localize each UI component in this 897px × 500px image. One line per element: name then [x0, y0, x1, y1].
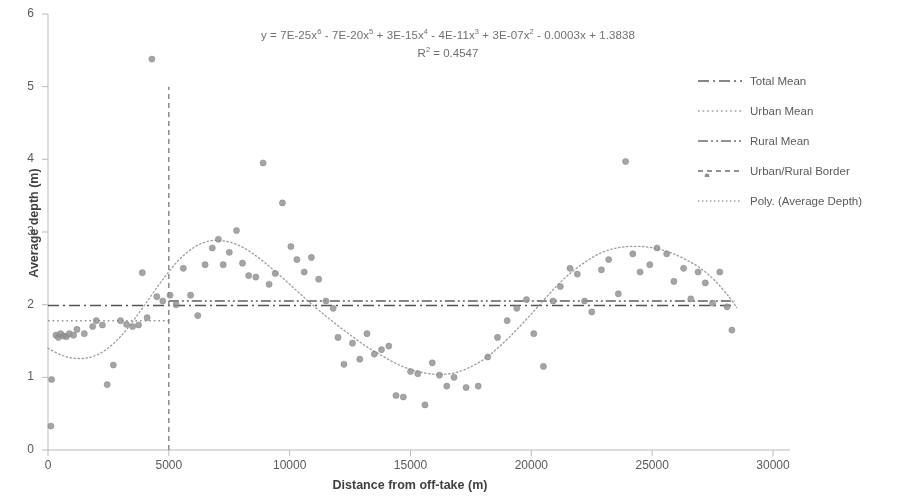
data-point: [139, 270, 145, 276]
legend-item-urban-rural-border[interactable]: Urban/Rural Border: [697, 156, 893, 186]
trendline: [48, 240, 737, 374]
data-point: [514, 305, 520, 311]
data-point: [598, 267, 604, 273]
legend-label: Poly. (Average Depth): [750, 195, 862, 207]
data-point: [81, 331, 87, 337]
data-point: [422, 402, 428, 408]
legend-key-icon: [697, 75, 743, 87]
data-point: [220, 262, 226, 268]
data-point: [48, 423, 54, 429]
data-point: [531, 331, 537, 337]
data-point: [104, 382, 110, 388]
polynomial-trendline: [48, 240, 737, 374]
data-point: [717, 269, 723, 275]
data-point: [154, 294, 160, 300]
data-point: [335, 334, 341, 340]
data-point: [444, 383, 450, 389]
legend-item-poly-average-depth[interactable]: Poly. (Average Depth): [697, 186, 893, 216]
x-tick-label: 30000: [738, 458, 808, 472]
data-point: [637, 269, 643, 275]
data-point: [664, 251, 670, 257]
legend-label: Rural Mean: [750, 135, 809, 147]
data-point: [606, 257, 612, 263]
data-point: [330, 305, 336, 311]
data-point: [349, 340, 355, 346]
data-point: [494, 334, 500, 340]
x-tick-label: 5000: [134, 458, 204, 472]
y-tick-label: 2: [8, 297, 34, 311]
data-point: [288, 243, 294, 249]
data-point: [400, 394, 406, 400]
y-tick-label: 4: [8, 151, 34, 165]
data-point: [117, 318, 123, 324]
data-point: [557, 283, 563, 289]
data-point: [149, 56, 155, 62]
trendline-equation: y = 7E-25x6 - 7E-20x5 + 3E-15x4 - 4E-11x…: [261, 27, 635, 41]
data-point: [180, 265, 186, 271]
x-axis-title: Distance from off-take (m): [333, 478, 488, 492]
data-point: [266, 281, 272, 287]
data-point: [702, 280, 708, 286]
data-point: [630, 251, 636, 257]
data-point: [341, 361, 347, 367]
data-point: [429, 360, 435, 366]
data-point: [74, 326, 80, 332]
legend-item-rural-mean[interactable]: Rural Mean: [697, 126, 893, 156]
chart-figure: .axisline{stroke:#b9b9b9;stroke-width:1;…: [0, 0, 897, 500]
data-point: [260, 160, 266, 166]
data-point: [188, 292, 194, 298]
legend-key-icon: [697, 165, 743, 177]
data-point: [93, 318, 99, 324]
y-tick-marks: [42, 14, 48, 450]
data-point: [279, 200, 285, 206]
legend-item-urban-mean[interactable]: Urban Mean: [697, 96, 893, 126]
data-point: [226, 249, 232, 255]
data-point: [316, 276, 322, 282]
y-tick-label: 0: [8, 442, 34, 456]
data-point: [523, 297, 529, 303]
data-point: [123, 321, 129, 327]
data-point: [239, 260, 245, 266]
data-point: [173, 302, 179, 308]
data-point: [160, 298, 166, 304]
x-tick-label: 0: [13, 458, 83, 472]
data-point: [574, 271, 580, 277]
data-point: [136, 322, 142, 328]
data-point: [567, 265, 573, 271]
data-point: [485, 354, 491, 360]
data-point: [90, 323, 96, 329]
legend-item-total-mean[interactable]: Total Mean: [697, 66, 893, 96]
y-tick-label: 5: [8, 79, 34, 93]
data-point: [202, 262, 208, 268]
data-point: [378, 347, 384, 353]
data-point: [357, 356, 363, 362]
data-point: [308, 254, 314, 260]
legend-key-icon: [697, 105, 743, 117]
data-point: [695, 269, 701, 275]
data-point: [215, 236, 221, 242]
data-point: [195, 313, 201, 319]
data-point: [272, 270, 278, 276]
data-points: [48, 56, 735, 429]
legend-key-icon: [697, 135, 743, 147]
legend-label: Urban Mean: [750, 105, 813, 117]
data-point: [386, 343, 392, 349]
r-squared-label: R2 = 0.4547: [418, 45, 479, 59]
data-point: [710, 300, 716, 306]
legend-label: Total Mean: [750, 75, 806, 87]
data-point: [475, 383, 481, 389]
data-point: [654, 245, 660, 251]
axes: [42, 14, 790, 456]
data-point: [393, 392, 399, 398]
data-point: [130, 323, 136, 329]
chart-legend: Total MeanUrban MeanRural MeanUrban/Rura…: [697, 66, 893, 216]
data-point: [681, 265, 687, 271]
data-point: [71, 332, 77, 338]
data-point: [647, 262, 653, 268]
data-point: [415, 371, 421, 377]
data-point: [167, 292, 173, 298]
data-point: [323, 298, 329, 304]
data-point: [615, 291, 621, 297]
data-point: [623, 158, 629, 164]
data-point: [729, 327, 735, 333]
